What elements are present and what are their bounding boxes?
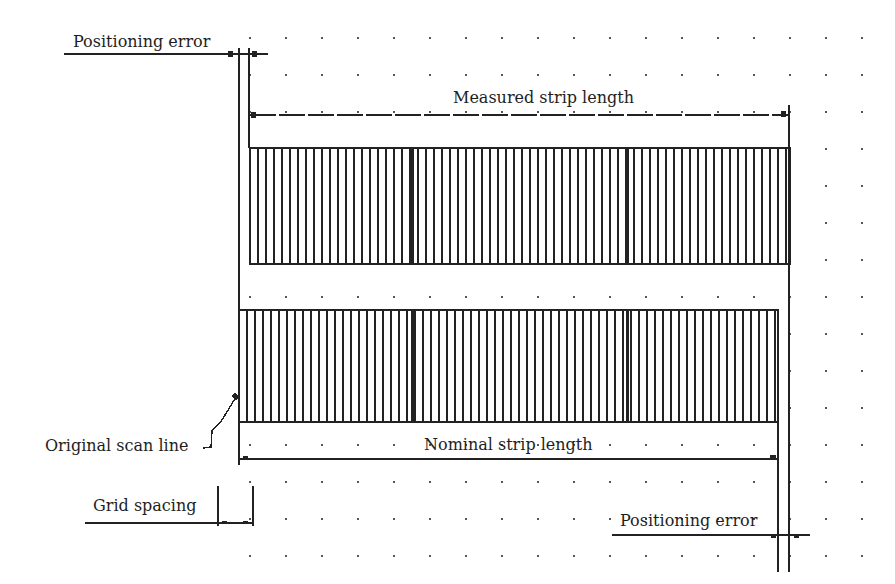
grid-dot <box>717 444 719 446</box>
grid-dot <box>249 37 251 39</box>
grid-dot <box>609 111 611 113</box>
grid-dot <box>393 518 395 520</box>
grid-dot <box>825 74 827 76</box>
grid-dot <box>825 296 827 298</box>
grid-dot <box>825 333 827 335</box>
grid-dot <box>501 555 503 557</box>
strip-outline <box>239 310 778 422</box>
arrowhead-icon <box>251 112 256 118</box>
measured-strip <box>250 148 790 264</box>
grid-dot <box>393 37 395 39</box>
grid-dot <box>357 444 359 446</box>
grid-dot <box>537 555 539 557</box>
grid-dot <box>357 481 359 483</box>
grid-dot <box>609 37 611 39</box>
arrowhead-icon <box>232 393 240 401</box>
grid-dot <box>681 481 683 483</box>
grid-dot <box>357 74 359 76</box>
grid-dot <box>861 185 863 187</box>
grid-dot <box>753 74 755 76</box>
grid-dot <box>357 296 359 298</box>
grid-dot <box>321 444 323 446</box>
grid-dot <box>789 37 791 39</box>
grid-dot <box>789 74 791 76</box>
grid-dot <box>357 37 359 39</box>
grid-dot <box>465 37 467 39</box>
grid-dot <box>609 74 611 76</box>
grid-dot <box>681 37 683 39</box>
nominal-strip <box>239 310 778 422</box>
measured-strip-length-label: Measured strip length <box>453 89 634 107</box>
grid-dot <box>249 518 251 520</box>
grid-dot <box>825 407 827 409</box>
arrowhead-icon <box>222 521 227 524</box>
grid-dot <box>825 259 827 261</box>
grid-spacing-label: Grid spacing <box>93 497 197 515</box>
grid-dot <box>285 555 287 557</box>
grid-dot <box>393 555 395 557</box>
grid-dot <box>681 296 683 298</box>
grid-dot <box>285 296 287 298</box>
grid-dot <box>861 259 863 261</box>
grid-dot <box>825 148 827 150</box>
grid-dot <box>321 296 323 298</box>
arrowhead-icon <box>243 456 248 460</box>
scan-line-leader <box>203 397 236 448</box>
grid-dot <box>537 296 539 298</box>
grid-dot <box>825 555 827 557</box>
grid-dot <box>861 407 863 409</box>
grid-dot <box>429 74 431 76</box>
grid-dot <box>609 444 611 446</box>
grid-dot <box>861 74 863 76</box>
grid-dot <box>825 37 827 39</box>
grid-dot <box>357 111 359 113</box>
original-scan-line-label: Original scan line <box>45 437 188 455</box>
grid-dot <box>717 37 719 39</box>
grid-dot <box>861 555 863 557</box>
grid-dot <box>249 296 251 298</box>
grid-dot <box>537 481 539 483</box>
grid-dot <box>609 555 611 557</box>
grid-dot <box>573 555 575 557</box>
grid-dot <box>645 481 647 483</box>
grid-dot <box>537 74 539 76</box>
grid-dot <box>717 481 719 483</box>
grid-dot <box>321 555 323 557</box>
grid-dot <box>573 74 575 76</box>
grid-dot <box>429 481 431 483</box>
grid-dot <box>825 111 827 113</box>
grid-dot <box>573 37 575 39</box>
positioning-error-bottom-label: Positioning error <box>620 512 757 530</box>
grid-dot <box>645 74 647 76</box>
grid-dot <box>393 74 395 76</box>
grid-dot <box>861 222 863 224</box>
grid-dot <box>285 481 287 483</box>
grid-dot <box>537 111 539 113</box>
grid-dot <box>861 481 863 483</box>
grid-dot <box>861 111 863 113</box>
grid-dot <box>501 481 503 483</box>
arrowhead-icon <box>794 534 799 538</box>
arrowhead-icon <box>781 111 786 117</box>
grid-dot <box>501 296 503 298</box>
grid-dot <box>357 555 359 557</box>
grid-dot <box>753 37 755 39</box>
grid-dot <box>321 74 323 76</box>
grid-dot <box>717 555 719 557</box>
grid-dot <box>465 518 467 520</box>
grid-dot <box>429 111 431 113</box>
grid-dot <box>393 111 395 113</box>
grid-dot <box>645 111 647 113</box>
grid-dot <box>249 555 251 557</box>
grid-dot <box>825 444 827 446</box>
grid-dot <box>753 296 755 298</box>
arrowhead-icon <box>243 521 248 524</box>
grid-dot <box>861 518 863 520</box>
grid-dot <box>753 111 755 113</box>
grid-dot <box>573 518 575 520</box>
grid-dot <box>645 296 647 298</box>
grid-dot <box>825 222 827 224</box>
grid-dot <box>465 481 467 483</box>
grid-dot <box>825 481 827 483</box>
grid-dot <box>753 481 755 483</box>
